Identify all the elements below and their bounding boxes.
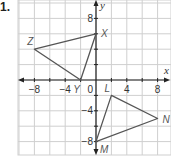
vertex-label-m: M (100, 144, 109, 155)
x-tick-label: −4 (59, 84, 71, 95)
x-tick-label: −8 (29, 84, 41, 95)
y-tick-label: −8 (82, 136, 94, 147)
triangles: XYZLMN (26, 28, 170, 154)
y-axis-arrow-down-icon (94, 149, 99, 155)
coordinate-plane: xy −8−4488−4−80 XYZLMN (0, 0, 171, 162)
axes: xy (18, 0, 170, 155)
origin-label: 0 (87, 84, 93, 95)
vertex-label-y: Y (73, 84, 81, 95)
y-tick-label: 8 (87, 13, 93, 24)
grid-lines (18, 0, 171, 155)
x-tick-label: 4 (124, 84, 130, 95)
vertex-label-z: Z (26, 36, 34, 47)
x-axis-arrow-right-icon (164, 78, 170, 83)
vertex-label-n: N (163, 114, 171, 125)
vertex-label-l: L (105, 83, 111, 94)
vertex-label-x: X (100, 28, 108, 39)
x-axis-label: x (163, 64, 169, 76)
y-tick-label: −4 (82, 105, 94, 116)
y-axis-label: y (99, 0, 105, 11)
x-tick-label: 8 (155, 84, 161, 95)
